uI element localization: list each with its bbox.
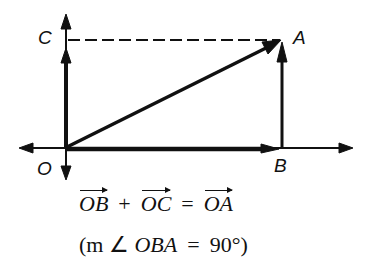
vector-term-oc: OC [141, 193, 172, 215]
point-label-b: B [274, 156, 287, 175]
equals-sign: = [181, 191, 193, 216]
plus-sign: + [118, 191, 130, 216]
vector-equation: OB+OC=OA [79, 193, 233, 215]
condition-value: 90°) [210, 232, 248, 257]
vector-ob-arrowhead-icon [261, 144, 279, 153]
point-label-a: A [293, 28, 306, 47]
point-label-c: C [38, 28, 52, 47]
point-label-o: O [37, 159, 52, 178]
condition-angle: OBA [134, 232, 177, 257]
vector-ba-arrowhead-icon [277, 42, 287, 62]
vector-oa [67, 48, 266, 147]
y-axis-down-arrow-icon [61, 166, 71, 180]
angle-condition: (m ∠ OBA=90°) [79, 234, 248, 256]
vector-oc-arrowhead-icon [61, 48, 71, 63]
x-axis-right-arrow-icon [339, 143, 353, 153]
vector-term-oa: OA [204, 193, 233, 215]
condition-open: (m ∠ [79, 232, 129, 257]
y-axis-up-arrow-icon [61, 14, 71, 29]
vector-term-ob: OB [79, 193, 108, 215]
vector-oa-arrowhead-icon [262, 40, 281, 54]
x-axis-left-arrow-icon [19, 143, 33, 153]
condition-equals: = [187, 232, 199, 257]
